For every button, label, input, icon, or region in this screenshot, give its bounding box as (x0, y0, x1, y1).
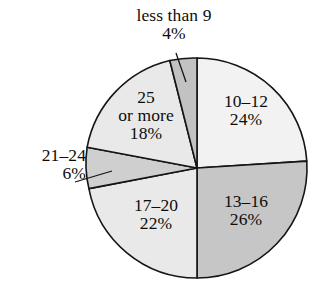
pie-label-25-or-more-line2: or more (96, 106, 196, 124)
pie-label-less-than-9-line1: less than 9 (104, 6, 244, 24)
pie-label-17-20-line1: 17–20 (110, 196, 202, 214)
pie-label-13-16-line1: 13–16 (203, 192, 289, 210)
pie-chart-figure: less than 9 4% 10–12 24% 13–16 26% 17–20… (0, 0, 333, 299)
pie-label-13-16: 13–16 26% (203, 192, 289, 228)
pie-label-21-24-value: 6% (2, 164, 86, 182)
pie-label-10-12-line1: 10–12 (203, 92, 289, 110)
pie-label-21-24: 21–24 6% (2, 146, 86, 182)
pie-label-less-than-9: less than 9 4% (104, 6, 244, 42)
pie-label-17-20-value: 22% (110, 214, 202, 232)
pie-label-25-or-more: 25 or more 18% (96, 88, 196, 143)
pie-label-17-20: 17–20 22% (110, 196, 202, 232)
pie-label-21-24-line1: 21–24 (2, 146, 86, 164)
pie-label-25-or-more-value: 18% (96, 124, 196, 142)
pie-label-25-or-more-line1: 25 (96, 88, 196, 106)
pie-label-less-than-9-value: 4% (104, 24, 244, 42)
pie-label-10-12-value: 24% (203, 110, 289, 128)
pie-label-10-12: 10–12 24% (203, 92, 289, 128)
pie-label-13-16-value: 26% (203, 210, 289, 228)
